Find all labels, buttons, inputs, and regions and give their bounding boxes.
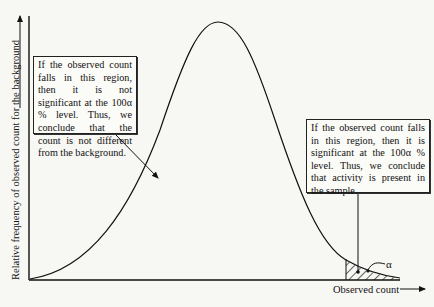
figure: If the observed count falls in this regi… bbox=[0, 0, 434, 307]
alpha-label: α bbox=[386, 258, 392, 270]
callout-not-significant: If the observed count falls in this regi… bbox=[33, 56, 137, 134]
y-axis-label: Relative frequency of observed count for… bbox=[10, 40, 21, 280]
alpha-leader bbox=[368, 263, 385, 270]
callout-significant-text: If the observed count falls in this regi… bbox=[311, 122, 425, 198]
x-axis-label: Observed count bbox=[333, 284, 399, 295]
callout-significant: If the observed count falls in this regi… bbox=[306, 119, 430, 193]
callout-not-significant-text: If the observed count falls in this regi… bbox=[38, 59, 132, 160]
